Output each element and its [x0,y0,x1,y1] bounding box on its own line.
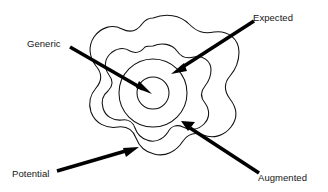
label-augmented: Augmented [258,172,307,183]
label-potential: Potential [12,168,49,179]
expected-callout-arrow [171,21,254,74]
generic-core-shape [137,77,169,109]
diagram-canvas: Generic Expected Potential Augmented [0,0,328,192]
augmented-callout-arrow [181,121,259,173]
label-generic: Generic [27,38,61,49]
levels-of-product-diagram [0,0,328,192]
potential-callout-arrow [57,147,139,171]
label-expected: Expected [253,12,293,23]
